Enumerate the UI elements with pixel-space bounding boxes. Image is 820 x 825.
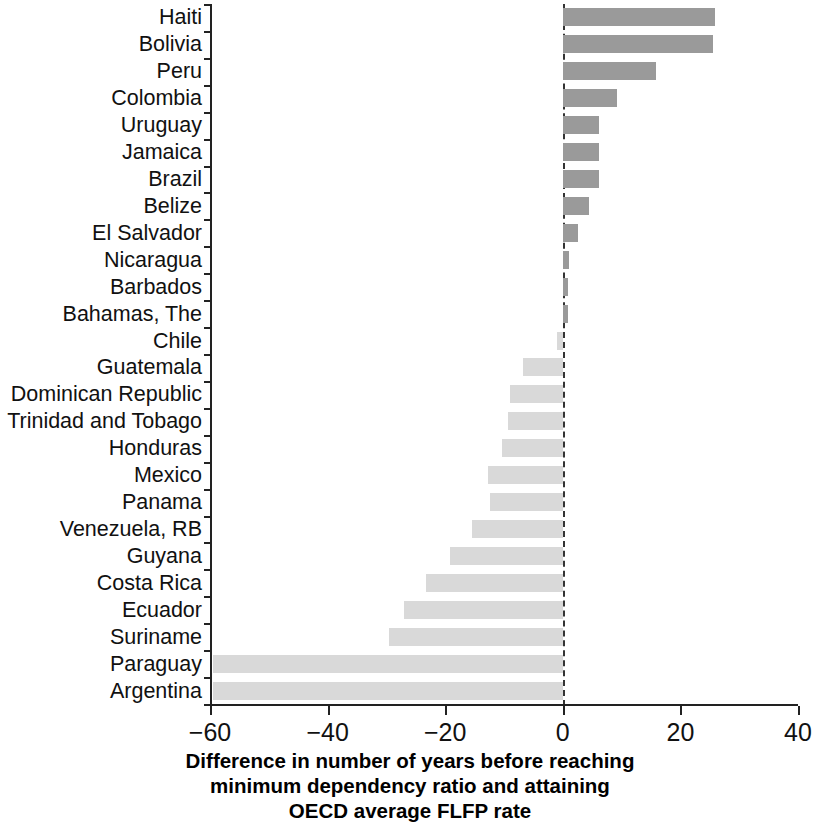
category-label: Dominican Republic: [2, 383, 202, 405]
bar: [213, 655, 563, 673]
bar-row: [210, 596, 798, 623]
y-axis-tick: [204, 273, 212, 275]
bar-row: [210, 623, 798, 650]
bar: [563, 197, 589, 215]
bar-row: [210, 85, 798, 112]
bar-row: [210, 542, 798, 569]
y-axis-tick: [204, 489, 212, 491]
x-axis-tick: [328, 706, 330, 715]
category-label: Peru: [2, 60, 202, 82]
x-axis-tick: [445, 706, 447, 715]
y-axis-tick: [204, 300, 212, 302]
y-axis-tick: [204, 166, 212, 168]
category-label: Costa Rica: [2, 572, 202, 594]
bar: [563, 251, 569, 269]
x-axis-tick: [680, 706, 682, 715]
y-axis-tick: [204, 219, 212, 221]
y-axis-tick: [204, 327, 212, 329]
y-axis-tick: [204, 569, 212, 571]
x-axis-title: Difference in number of years before rea…: [0, 748, 820, 823]
x-axis-title-line: Difference in number of years before rea…: [0, 748, 820, 773]
y-axis-tick: [204, 31, 212, 33]
bar-row: [210, 489, 798, 516]
bar: [563, 8, 715, 26]
category-label: Bahamas, The: [2, 303, 202, 325]
y-axis-tick: [204, 516, 212, 518]
bar: [213, 682, 563, 700]
bar: [563, 62, 656, 80]
bar-row: [210, 381, 798, 408]
y-axis-tick: [204, 596, 212, 598]
x-axis-title-line: minimum dependency ratio and attaining: [0, 773, 820, 798]
bar-row: [210, 192, 798, 219]
x-axis-tick: [798, 706, 800, 715]
bar-row: [210, 354, 798, 381]
bar-row: [210, 569, 798, 596]
bar-row: [210, 112, 798, 139]
category-label: Paraguay: [2, 653, 202, 675]
plot-area: [210, 4, 798, 704]
x-axis-tick-label: 40: [784, 718, 812, 747]
bar-row: [210, 31, 798, 58]
category-label: Haiti: [2, 6, 202, 28]
category-label: Brazil: [2, 168, 202, 190]
y-axis-tick: [204, 58, 212, 60]
bar: [510, 385, 562, 403]
y-axis-tick: [204, 462, 212, 464]
x-axis-title-line: OECD average FLFP rate: [0, 798, 820, 823]
category-label: Chile: [2, 330, 202, 352]
bar: [404, 601, 563, 619]
bar: [563, 305, 568, 323]
y-axis-tick: [204, 246, 212, 248]
y-axis-tick: [204, 623, 212, 625]
x-axis-tick-label: −60: [189, 718, 231, 747]
bar-row: [210, 408, 798, 435]
bar: [563, 278, 568, 296]
bar-row: [210, 219, 798, 246]
bar: [563, 35, 714, 53]
y-axis-tick: [204, 85, 212, 87]
category-label: Barbados: [2, 276, 202, 298]
bar-row: [210, 246, 798, 273]
bar-row: [210, 166, 798, 193]
x-axis-tick-label: 20: [666, 718, 694, 747]
bar: [472, 520, 563, 538]
bar-row: [210, 650, 798, 677]
y-axis-tick: [204, 381, 212, 383]
bar-row: [210, 677, 798, 704]
bar-row: [210, 300, 798, 327]
x-axis-tick: [563, 706, 565, 715]
y-axis-tick: [204, 4, 212, 6]
y-axis-tick: [204, 139, 212, 141]
category-label: Panama: [2, 491, 202, 513]
bar-row: [210, 327, 798, 354]
bar-row: [210, 435, 798, 462]
category-label: Colombia: [2, 87, 202, 109]
bar-row: [210, 462, 798, 489]
bar-row: [210, 58, 798, 85]
y-axis-tick: [204, 542, 212, 544]
bar-row: [210, 516, 798, 543]
x-axis-tick-label: 0: [556, 718, 570, 747]
x-axis-tick-label: −40: [306, 718, 348, 747]
category-label: Argentina: [2, 680, 202, 702]
bar: [426, 574, 563, 592]
y-axis-tick: [204, 112, 212, 114]
bar: [502, 439, 563, 457]
bar-row: [210, 139, 798, 166]
category-label: Nicaragua: [2, 249, 202, 271]
category-label: Bolivia: [2, 33, 202, 55]
bar: [563, 170, 599, 188]
bar: [508, 412, 563, 430]
category-label: Belize: [2, 195, 202, 217]
bar: [450, 547, 562, 565]
bar: [523, 358, 562, 376]
y-axis-tick: [204, 677, 212, 679]
category-label: Trinidad and Tobago: [2, 410, 202, 432]
bar: [488, 466, 563, 484]
bar: [490, 493, 563, 511]
bar: [389, 628, 563, 646]
category-label: Honduras: [2, 437, 202, 459]
category-label: Venezuela, RB: [2, 518, 202, 540]
category-label: Guyana: [2, 545, 202, 567]
